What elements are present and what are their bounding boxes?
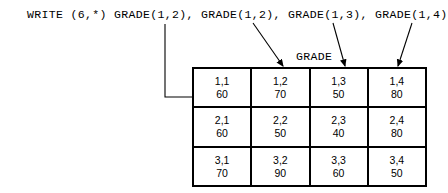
- array-cell: 3,2 90: [251, 147, 309, 186]
- diagram-canvas: WRITE (6,*) GRADE(1,2), GRADE(1,2), GRAD…: [0, 0, 448, 193]
- array-name-caption: GRADE: [296, 50, 332, 63]
- arrow-to-cell-1-4-path: [398, 23, 412, 66]
- cell-index: 1,4: [390, 75, 405, 87]
- cell-value: 50: [333, 88, 345, 100]
- array-cell: 2,3 40: [310, 107, 368, 146]
- cell-index: 1,3: [331, 75, 346, 87]
- cell-value: 90: [275, 167, 287, 179]
- cell-value: 80: [391, 88, 403, 100]
- cell-index: 2,2: [273, 114, 288, 126]
- table-row: 2,1 60 2,2 50 2,3 40: [193, 107, 426, 146]
- array-cell: 1,3 50: [310, 68, 368, 107]
- table-row: 3,1 70 3,2 90 3,3 60: [193, 147, 426, 186]
- array-cell: 2,1 60: [193, 107, 251, 146]
- cell-value: 60: [216, 88, 228, 100]
- fortran-write-statement: WRITE (6,*) GRADE(1,2), GRADE(1,2), GRAD…: [27, 8, 448, 22]
- grade-array-table: 1,1 60 1,2 70 1,3 50: [192, 67, 427, 187]
- cell-value: 80: [391, 127, 403, 139]
- array-cell: 1,1 60: [193, 68, 251, 107]
- array-cell: 2,2 50: [251, 107, 309, 146]
- array-cell: 1,4 80: [368, 68, 426, 107]
- array-cell: 3,4 50: [368, 147, 426, 186]
- cell-index: 3,3: [331, 154, 346, 166]
- cell-index: 1,2: [273, 75, 288, 87]
- cell-index: 1,1: [215, 75, 230, 87]
- cell-value: 40: [333, 127, 345, 139]
- cell-index: 2,4: [390, 114, 405, 126]
- cell-value: 50: [391, 167, 403, 179]
- arrow-to-cell-1-3-path: [333, 23, 345, 66]
- array-cell: 3,3 60: [310, 147, 368, 186]
- cell-index: 3,1: [215, 154, 230, 166]
- array-cell: 1,2 70: [251, 68, 309, 107]
- array-cell: 3,1 70: [193, 147, 251, 186]
- cell-index: 2,3: [331, 114, 346, 126]
- cell-value: 50: [275, 127, 287, 139]
- cell-value: 70: [216, 167, 228, 179]
- table-row: 1,1 60 1,2 70 1,3 50: [193, 68, 426, 107]
- cell-value: 70: [275, 88, 287, 100]
- cell-value: 60: [333, 167, 345, 179]
- cell-index: 2,1: [215, 114, 230, 126]
- cell-value: 60: [216, 127, 228, 139]
- array-cell: 2,4 80: [368, 107, 426, 146]
- cell-index: 3,2: [273, 154, 288, 166]
- arrow-to-cell-1-2-path: [253, 23, 283, 66]
- cell-index: 3,4: [390, 154, 405, 166]
